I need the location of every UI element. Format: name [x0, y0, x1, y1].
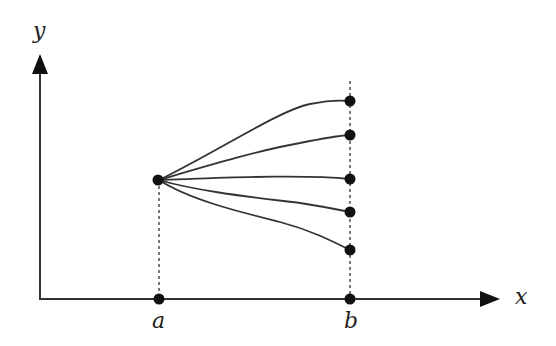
y-axis-label: y [32, 18, 46, 43]
curve-family [159, 100, 350, 250]
end-point-dot-3 [345, 174, 356, 185]
curve-1 [159, 100, 350, 180]
point-a-dot [154, 294, 165, 305]
x-axis [39, 291, 500, 307]
y-axis [32, 54, 48, 299]
curve-4 [159, 180, 350, 212]
point-b-dot [345, 294, 356, 305]
diagram-canvas: y x a b [0, 0, 556, 346]
start-point-dot [153, 175, 164, 186]
end-point-dot-1 [345, 96, 356, 107]
end-point-dot-5 [345, 245, 356, 256]
end-point-dot-2 [345, 130, 356, 141]
curve-2 [159, 135, 350, 180]
curve-3 [159, 177, 350, 180]
point-b-label: b [344, 308, 358, 333]
y-axis-arrow-icon [32, 54, 48, 74]
x-axis-arrow-icon [480, 291, 500, 307]
point-a-label: a [152, 308, 165, 333]
end-point-dot-4 [345, 207, 356, 218]
curve-5 [159, 180, 350, 250]
x-axis-label: x [515, 284, 528, 309]
